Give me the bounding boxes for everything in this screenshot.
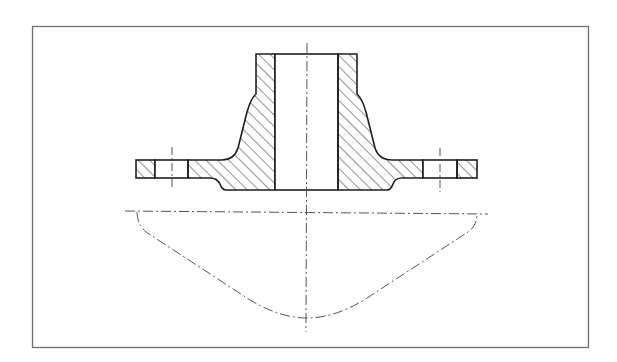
left-hub-section: [188, 54, 275, 190]
flange-drawing: [0, 0, 617, 362]
right-hub-section: [338, 54, 423, 190]
stress-distribution-curve: [137, 212, 477, 318]
right-flange-outer-section: [457, 160, 477, 178]
drawing-canvas: [0, 0, 617, 362]
left-flange-outer-section: [136, 160, 155, 178]
